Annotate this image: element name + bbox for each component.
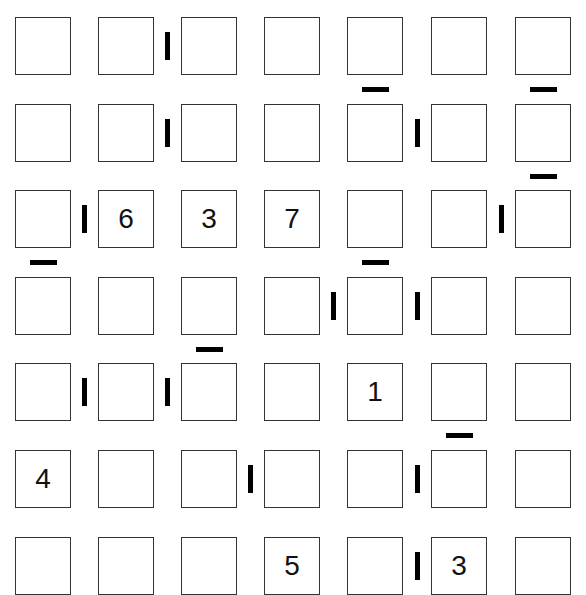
grid-cell-r4-c6[interactable] [515,363,571,421]
grid-cell-r2-c6[interactable] [515,190,571,248]
grid-cell-r2-c1[interactable]: 6 [98,190,154,248]
horizontal-bar-marker [30,260,57,265]
grid-cell-r6-c2[interactable] [181,537,237,595]
grid-cell-r6-c5[interactable]: 3 [431,537,487,595]
horizontal-bar-marker [446,433,473,438]
grid-cell-r1-c0[interactable] [15,104,71,162]
vertical-bar-marker [499,205,504,233]
grid-cell-r2-c5[interactable] [431,190,487,248]
grid-cell-r6-c4[interactable] [347,537,403,595]
grid-cell-r6-c0[interactable] [15,537,71,595]
grid-cell-r5-c4[interactable] [347,450,403,508]
grid-cell-r4-c4[interactable]: 1 [347,363,403,421]
horizontal-bar-marker [362,260,389,265]
vertical-bar-marker [415,292,420,320]
horizontal-bar-marker [530,174,557,179]
grid-cell-r2-c3[interactable]: 7 [264,190,320,248]
grid-cell-r5-c1[interactable] [98,450,154,508]
grid-cell-r1-c1[interactable] [98,104,154,162]
grid-cell-r6-c6[interactable] [515,537,571,595]
grid-cell-r1-c2[interactable] [181,104,237,162]
grid-cell-r0-c4[interactable] [347,17,403,75]
grid-cell-r5-c6[interactable] [515,450,571,508]
vertical-bar-marker [82,378,87,406]
grid-cell-r3-c0[interactable] [15,277,71,335]
horizontal-bar-marker [362,87,389,92]
grid-cell-r6-c1[interactable] [98,537,154,595]
grid-cell-r5-c2[interactable] [181,450,237,508]
vertical-bar-marker [331,292,336,320]
grid-cell-r1-c4[interactable] [347,104,403,162]
grid-cell-r6-c3[interactable]: 5 [264,537,320,595]
vertical-bar-marker [415,465,420,493]
grid-cell-r3-c5[interactable] [431,277,487,335]
grid-cell-r5-c3[interactable] [264,450,320,508]
grid-cell-r0-c6[interactable] [515,17,571,75]
grid-cell-r1-c5[interactable] [431,104,487,162]
vertical-bar-marker [248,465,253,493]
grid-cell-r3-c1[interactable] [98,277,154,335]
grid-cell-r2-c2[interactable]: 3 [181,190,237,248]
horizontal-bar-marker [530,87,557,92]
grid-cell-r3-c4[interactable] [347,277,403,335]
vertical-bar-marker [165,119,170,147]
grid-cell-r1-c3[interactable] [264,104,320,162]
grid-cell-r3-c2[interactable] [181,277,237,335]
grid-cell-r0-c5[interactable] [431,17,487,75]
vertical-bar-marker [415,552,420,580]
grid-cell-r0-c1[interactable] [98,17,154,75]
grid-cell-r3-c6[interactable] [515,277,571,335]
grid-cell-r3-c3[interactable] [264,277,320,335]
grid-cell-r5-c5[interactable] [431,450,487,508]
grid-cell-r4-c0[interactable] [15,363,71,421]
grid-cell-r2-c4[interactable] [347,190,403,248]
grid-cell-r0-c3[interactable] [264,17,320,75]
vertical-bar-marker [165,378,170,406]
grid-cell-r4-c5[interactable] [431,363,487,421]
grid-cell-r1-c6[interactable] [515,104,571,162]
grid-cell-r0-c2[interactable] [181,17,237,75]
grid-cell-r4-c1[interactable] [98,363,154,421]
grid-cell-r5-c0[interactable]: 4 [15,450,71,508]
grid-cell-r4-c3[interactable] [264,363,320,421]
horizontal-bar-marker [196,347,223,352]
vertical-bar-marker [82,205,87,233]
grid-cell-r4-c2[interactable] [181,363,237,421]
vertical-bar-marker [415,119,420,147]
vertical-bar-marker [165,32,170,60]
grid-cell-r2-c0[interactable] [15,190,71,248]
grid-cell-r0-c0[interactable] [15,17,71,75]
